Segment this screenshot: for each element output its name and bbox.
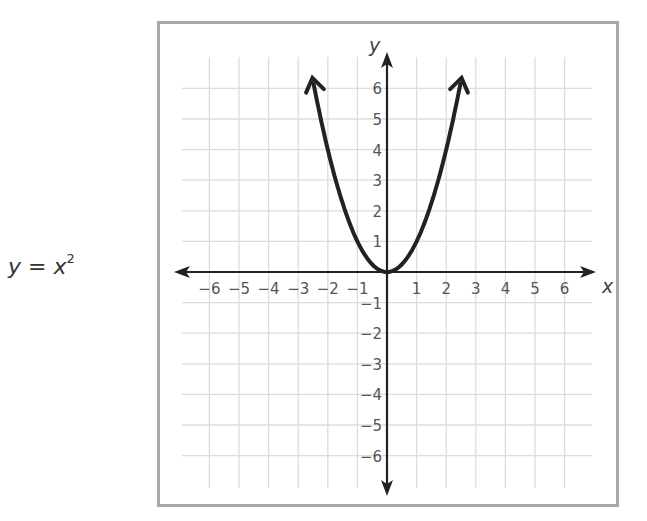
y-tick-label: 6 xyxy=(372,80,382,98)
x-tick-label: 3 xyxy=(471,280,481,298)
x-tick-label: 1 xyxy=(412,280,422,298)
y-tick-label: 2 xyxy=(372,203,382,221)
x-tick-label: −5 xyxy=(228,280,250,298)
y-tick-label: 4 xyxy=(372,142,382,160)
tick-labels: −6−5−4−3−2−1123456−6−5−4−3−2−1123456xy xyxy=(198,34,614,466)
x-tick-label: −4 xyxy=(258,280,280,298)
y-tick-label: −1 xyxy=(360,295,382,313)
y-tick-label: −2 xyxy=(360,325,382,343)
x-tick-label: 6 xyxy=(560,280,570,298)
y-tick-label: −6 xyxy=(360,448,382,466)
x-axis-label: x xyxy=(601,275,614,297)
coordinate-plane: −6−5−4−3−2−1123456−6−5−4−3−2−1123456xy xyxy=(0,0,647,521)
y-tick-label: −3 xyxy=(360,356,382,374)
y-tick-label: −5 xyxy=(360,417,382,435)
x-tick-label: −3 xyxy=(287,280,309,298)
y-tick-label: 1 xyxy=(372,233,382,251)
y-tick-label: 3 xyxy=(372,172,382,190)
y-tick-label: −4 xyxy=(360,386,382,404)
x-tick-label: −2 xyxy=(317,280,339,298)
y-axis-label: y xyxy=(368,34,381,56)
y-tick-label: 5 xyxy=(372,111,382,129)
x-tick-label: 5 xyxy=(530,280,540,298)
x-tick-label: −6 xyxy=(198,280,220,298)
x-tick-label: 4 xyxy=(501,280,511,298)
x-tick-label: 2 xyxy=(441,280,451,298)
